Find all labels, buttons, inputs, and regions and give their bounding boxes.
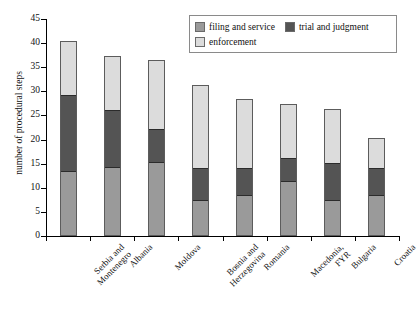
x-tick-label: Macedonia,FYR: [308, 242, 352, 286]
y-tick-label: 25: [12, 110, 40, 120]
x-tick-label: Moldova: [173, 242, 203, 272]
bar-segment: [281, 182, 296, 235]
y-tick-label: 45: [12, 14, 40, 24]
bar-segment: [369, 168, 384, 197]
y-tick-label: 5: [12, 207, 40, 217]
x-tick: [46, 236, 47, 241]
bar-segment: [61, 95, 76, 172]
y-tick: [41, 188, 46, 189]
bar-segment: [193, 86, 208, 168]
bar-segment: [237, 100, 252, 168]
bar-segment: [325, 201, 340, 235]
legend-row-bottom: enforcement: [195, 34, 391, 49]
bar-segment: [105, 110, 120, 168]
bar: [192, 85, 209, 236]
y-tick-label: 40: [12, 38, 40, 48]
y-axis-line: [46, 19, 47, 236]
bar: [104, 56, 121, 236]
x-tick: [311, 236, 312, 241]
bar: [236, 99, 253, 236]
bar-segment: [237, 196, 252, 235]
bar: [324, 109, 341, 236]
y-tick: [41, 140, 46, 141]
y-tick-label: 0: [12, 231, 40, 241]
bar: [368, 138, 385, 236]
x-tick-label-line: Croatia: [392, 242, 418, 268]
bar-segment: [61, 172, 76, 235]
bar-segment: [325, 163, 340, 202]
bar-segment: [237, 168, 252, 197]
x-tick-label: Croatia: [392, 242, 418, 268]
y-tick-label: 15: [12, 159, 40, 169]
bar-segment: [105, 168, 120, 236]
legend-item-trial-and-judgment: trial and judgment: [285, 22, 369, 32]
bar: [148, 60, 165, 236]
y-tick: [41, 43, 46, 44]
legend-item-filing-and-service: filing and service: [195, 22, 275, 32]
bar: [280, 104, 297, 236]
bar-segment: [149, 129, 164, 163]
x-tick-label-line: Moldova: [173, 242, 203, 272]
x-tick: [399, 236, 400, 241]
y-tick: [41, 19, 46, 20]
bar: [60, 41, 77, 236]
x-tick: [223, 236, 224, 241]
y-tick-label: 30: [12, 86, 40, 96]
bar-segment: [193, 201, 208, 235]
bar-segment: [105, 57, 120, 110]
bar-segment: [369, 196, 384, 235]
bar-segment: [149, 61, 164, 129]
y-tick-label: 10: [12, 183, 40, 193]
bar-segment: [193, 168, 208, 202]
chart-legend: filing and service trial and judgment en…: [189, 15, 397, 53]
legend-label: trial and judgment: [299, 22, 369, 32]
bar-segment: [369, 139, 384, 168]
x-tick: [355, 236, 356, 241]
y-tick: [41, 91, 46, 92]
bar-segment: [61, 42, 76, 95]
y-tick: [41, 115, 46, 116]
x-tick: [267, 236, 268, 241]
figure-caption: [0, 300, 413, 310]
bar-segment: [325, 110, 340, 163]
legend-row-top: filing and service trial and judgment: [195, 19, 391, 34]
y-tick: [41, 164, 46, 165]
legend-swatch-icon: [195, 22, 205, 32]
bar-segment: [281, 158, 296, 182]
bar-segment: [281, 105, 296, 158]
y-tick: [41, 212, 46, 213]
x-tick: [178, 236, 179, 241]
bar-segment: [149, 163, 164, 235]
x-tick-label: Bosnia andHerzegovina: [221, 242, 268, 289]
x-tick-label: Bulgaria: [349, 242, 378, 271]
x-tick: [90, 236, 91, 241]
legend-label: enforcement: [209, 37, 256, 47]
x-tick-label-line: Bulgaria: [349, 242, 378, 271]
x-tick-label: Serbia andMontenegro: [88, 242, 133, 287]
legend-swatch-icon: [195, 37, 205, 47]
legend-label: filing and service: [209, 22, 275, 32]
y-tick-label: 20: [12, 135, 40, 145]
x-tick: [134, 236, 135, 241]
legend-swatch-icon: [285, 22, 295, 32]
y-tick-label: 35: [12, 62, 40, 72]
legend-item-enforcement: enforcement: [195, 37, 256, 47]
y-tick: [41, 67, 46, 68]
